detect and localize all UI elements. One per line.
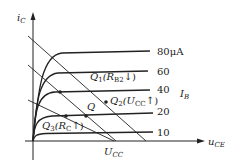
curve-label-80: 80μA xyxy=(157,46,184,57)
point-q xyxy=(84,114,88,118)
y-axis-arrow-icon xyxy=(31,12,36,20)
curve-label-10: 10 xyxy=(157,127,170,138)
curve-label-20: 20 xyxy=(157,106,170,117)
x-axis-arrow-icon xyxy=(197,139,205,144)
curve-label-60: 60 xyxy=(157,66,170,77)
label-q3: Q3(RC↑) xyxy=(42,120,84,133)
curve-label-40: 40 xyxy=(157,84,170,95)
operating-points xyxy=(58,90,108,118)
y-axis-label: iC xyxy=(17,12,26,25)
label-q: Q xyxy=(87,101,95,112)
x-axis-label: uCE xyxy=(208,136,225,149)
characteristics-diagram: iC uCE Q1(RB2↓) Q Q2(UCC↑) Q3(RC↑) 80μA … xyxy=(0,0,238,168)
point-q3 xyxy=(64,114,68,118)
point-q2 xyxy=(104,100,108,104)
ucc-label: UCC xyxy=(104,146,124,159)
curve-10 xyxy=(33,132,153,141)
label-q1: Q1(RB2↓) xyxy=(90,71,136,84)
label-q2: Q2(UCC↑) xyxy=(110,95,158,108)
ib-family-label: IB xyxy=(179,88,189,101)
point-q1 xyxy=(58,90,62,94)
